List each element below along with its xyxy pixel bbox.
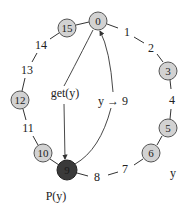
svg-text:12: 12 [15,94,26,106]
svg-text:0: 0 [95,15,101,27]
node-6: 6 [142,144,160,162]
ring-label-2: 2 [148,41,154,55]
ring-label-1: 1 [124,25,130,39]
node-15: 15 [58,19,76,37]
map-annotation: y → 9 [98,94,128,108]
svg-text:5: 5 [165,122,171,134]
svg-text:9: 9 [64,164,70,176]
node-9-active: 9 [57,160,77,180]
chord-ring-diagram: 0 3 5 6 9 10 12 15 1 2 4 7 8 11 13 14 ge… [0,0,189,214]
get-annotation: get(y) [51,86,80,100]
node-0: 0 [89,12,107,30]
get-arrow [64,30,93,86]
key-annotation: y [170,166,176,180]
node-3: 3 [159,62,177,80]
map-arrow [100,31,113,92]
svg-text:10: 10 [38,147,50,159]
svg-text:6: 6 [148,147,154,159]
owner-annotation: P(y) [46,189,67,203]
node-12: 12 [11,91,29,109]
ring-label-7: 7 [122,162,128,176]
ring-label-8: 8 [94,170,100,184]
ring-label-14: 14 [35,38,47,52]
ring-label-13: 13 [21,63,33,77]
node-5: 5 [159,119,177,137]
ring-label-4: 4 [169,93,175,107]
get-arrow-lower [64,104,65,159]
ring-label-11: 11 [22,121,34,135]
svg-text:15: 15 [62,22,74,34]
node-10: 10 [34,144,52,162]
svg-text:3: 3 [165,65,171,77]
map-arrow-lower [75,108,111,164]
